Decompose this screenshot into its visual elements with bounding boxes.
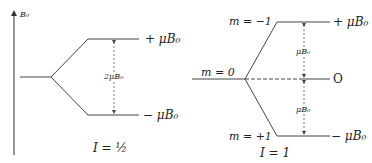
left-lower-energy-label: − μB₀	[143, 109, 178, 121]
m-plus-one-label: m = +1	[229, 131, 272, 142]
right-levels	[192, 22, 330, 136]
right-spin-label: I = 1	[260, 147, 290, 159]
right-gap-upper-label: μB₀	[296, 48, 310, 56]
right-lower-energy-label: − μB₀	[331, 130, 366, 142]
m-zero-label: m = 0	[201, 67, 235, 78]
left-upper-energy-label: + μB₀	[145, 33, 180, 45]
axis-label-b0: B₀	[20, 11, 29, 19]
m-minus-one-label: m = −1	[229, 16, 272, 27]
right-upper-energy-label: + μB₀	[333, 16, 368, 28]
left-spin-label: I = ½	[93, 142, 127, 154]
right-middle-energy-label: O	[333, 73, 343, 85]
right-gap-lower-label: μB₀	[296, 106, 310, 114]
energy-level-diagram	[0, 0, 372, 163]
left-gap-label: 2μB₀	[104, 73, 123, 81]
